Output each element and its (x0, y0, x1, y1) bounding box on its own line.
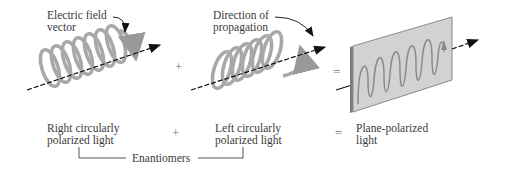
caption-line: Left circularly (215, 122, 282, 134)
propagation-arrow-2 (191, 47, 325, 90)
plane-polarized-caption: Plane-polarized light (356, 122, 428, 146)
plus-operator-bottom: + (172, 125, 179, 141)
enantiomers-label: Enantiomers (132, 152, 190, 164)
left-circular-caption: Left circularly polarized light (215, 122, 282, 146)
electric-field-label: Electric field vector (47, 9, 107, 33)
right-helix-icon (37, 23, 134, 88)
equals-operator-top: = (333, 64, 340, 80)
caption-line: light (356, 134, 428, 146)
callout-line: Electric field (47, 9, 107, 21)
caption-line: polarized light (47, 134, 120, 146)
callout-line: Direction of (213, 9, 269, 21)
caption-line: Plane-polarized (356, 122, 428, 134)
enantiomers-bracket (79, 147, 126, 158)
direction-label: Direction of propagation (213, 9, 269, 33)
left-helix-icon (209, 29, 304, 90)
plane-panel-icon (350, 17, 452, 113)
propagation-arrow-3 (452, 40, 478, 49)
callout-line: propagation (213, 21, 269, 33)
propagation-arrow-3-tail (336, 85, 352, 90)
equals-operator-bottom: = (335, 125, 342, 141)
right-circular-caption: Right circularly polarized light (47, 122, 120, 146)
callout-line: vector (47, 21, 107, 33)
caption-line: Right circularly (47, 122, 120, 134)
plus-operator-top: + (175, 59, 182, 75)
caption-line: polarized light (215, 134, 282, 146)
